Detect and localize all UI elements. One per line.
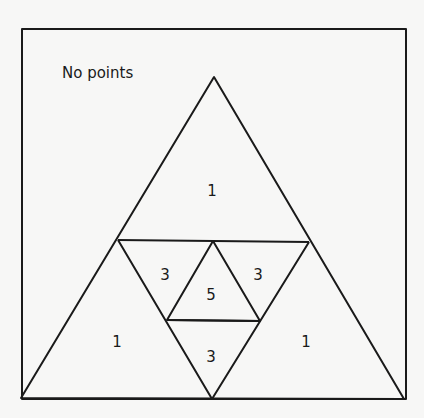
region-label-center: 5 [206, 286, 216, 304]
triangle-diagram: No points 1 3 5 3 3 1 1 [0, 0, 424, 418]
inner-base-line [167, 320, 260, 321]
region-label-bottom-left: 1 [112, 333, 122, 351]
region-label-bottom-inner: 3 [206, 348, 216, 366]
center-triangle [167, 241, 260, 321]
region-label-top: 1 [207, 182, 217, 200]
region-label-left-inner: 3 [160, 266, 170, 284]
bounding-box [22, 29, 406, 399]
diagram-title: No points [62, 64, 133, 82]
region-label-right-inner: 3 [253, 266, 263, 284]
region-label-bottom-right: 1 [301, 333, 311, 351]
